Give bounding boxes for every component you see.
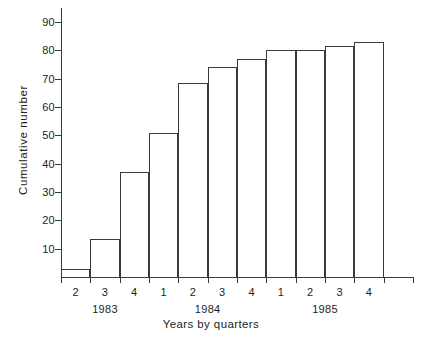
x-quarter-label: 2 [64, 286, 88, 298]
x-tick [149, 277, 150, 283]
y-tick-label: 50 [42, 130, 55, 141]
x-tick [354, 277, 355, 283]
x-quarter-label: 2 [298, 286, 322, 298]
x-quarter-label: 4 [240, 286, 264, 298]
x-tick [208, 277, 209, 283]
y-axis-title: Cumulative number [17, 65, 29, 215]
y-tick-label: 30 [42, 187, 55, 198]
bar [325, 46, 354, 277]
y-tick-label: 10 [42, 244, 55, 255]
bar [61, 269, 90, 277]
y-tick-label: 90 [42, 17, 55, 28]
bar [266, 50, 295, 277]
bar [120, 172, 149, 277]
bar [354, 42, 383, 277]
x-quarter-label: 3 [93, 286, 117, 298]
bar-chart: 102030405060708090 234123412341983198419… [0, 0, 422, 339]
y-tick-label: 20 [42, 215, 55, 226]
bar [296, 50, 325, 277]
x-year-label: 1983 [81, 303, 129, 315]
x-axis-title: Years by quarters [0, 318, 422, 330]
x-year-label: 1984 [184, 303, 232, 315]
x-quarter-label: 1 [152, 286, 176, 298]
bar [208, 67, 237, 277]
y-tick-label: 60 [42, 102, 55, 113]
bar [178, 83, 207, 277]
y-tick-label: 80 [42, 45, 55, 56]
y-tick-label: 70 [42, 74, 55, 85]
x-tick [120, 277, 121, 283]
x-tick [384, 277, 385, 283]
x-tick [325, 277, 326, 283]
y-tick-label: 40 [42, 159, 55, 170]
x-quarter-label: 1 [269, 286, 293, 298]
x-tick [61, 277, 62, 283]
x-quarter-label: 2 [181, 286, 205, 298]
x-quarter-label: 3 [210, 286, 234, 298]
x-quarter-label: 4 [357, 286, 381, 298]
plot-area [61, 8, 413, 277]
x-year-label: 1985 [301, 303, 349, 315]
bar [237, 59, 266, 277]
x-tick [90, 277, 91, 283]
bar [90, 239, 119, 277]
x-tick [237, 277, 238, 283]
x-quarter-label: 3 [328, 286, 352, 298]
bar [149, 133, 178, 277]
x-tick [266, 277, 267, 283]
x-quarter-label: 4 [122, 286, 146, 298]
x-tick [178, 277, 179, 283]
x-tick [413, 277, 414, 283]
x-tick [296, 277, 297, 283]
